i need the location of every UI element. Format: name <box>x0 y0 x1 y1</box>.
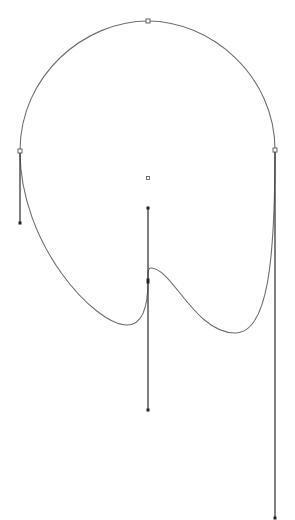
middle-handle-bottom-point[interactable] <box>147 409 150 412</box>
bezier-path-svg[interactable] <box>0 0 295 520</box>
right-handle-point[interactable] <box>274 517 277 520</box>
anchor-top[interactable] <box>146 19 150 23</box>
center-mark <box>147 177 150 180</box>
anchor-middle[interactable] <box>147 279 150 284</box>
left-handle-point[interactable] <box>19 222 22 225</box>
middle-handle-top-point[interactable] <box>147 207 150 210</box>
drawing-canvas[interactable] <box>0 0 295 520</box>
anchor-left[interactable] <box>18 149 22 153</box>
anchor-right[interactable] <box>273 148 277 152</box>
